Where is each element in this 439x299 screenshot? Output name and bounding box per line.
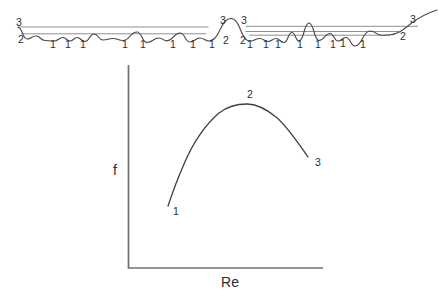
level-label: 2 xyxy=(223,34,229,46)
trough-label: 1 xyxy=(340,37,346,49)
trough-label: 1 xyxy=(209,38,215,50)
trough-label: 1 xyxy=(65,38,71,50)
level-label: 3 xyxy=(241,14,247,26)
figure-canvas: 32323232 1111111111111111 f Re 123 xyxy=(0,0,439,299)
trough-label: 1 xyxy=(263,38,269,50)
trough-label: 1 xyxy=(122,38,128,50)
trough-label: 1 xyxy=(170,38,176,50)
x-axis-label: Re xyxy=(221,274,239,290)
f-re-plot: f Re 123 xyxy=(113,65,323,290)
curve-point-label: 1 xyxy=(173,205,179,217)
trough-label: 1 xyxy=(140,38,146,50)
trough-label: 1 xyxy=(275,38,281,50)
level-label: 2 xyxy=(240,34,246,46)
curve-point-labels: 123 xyxy=(173,88,321,217)
trough-label: 1 xyxy=(80,38,86,50)
trough-label: 1 xyxy=(360,38,366,50)
wave-trough-labels: 1111111111111111 xyxy=(50,37,366,50)
trough-label: 1 xyxy=(315,38,321,50)
wave-level-labels: 32323232 xyxy=(16,13,416,46)
wave-profile-sketch: 32323232 1111111111111111 xyxy=(16,10,437,50)
level-label: 3 xyxy=(16,16,22,28)
level-label: 3 xyxy=(220,14,226,26)
level-label: 2 xyxy=(18,33,24,45)
curve-point-label: 3 xyxy=(315,156,321,168)
curve-point-label: 2 xyxy=(247,88,253,100)
y-axis-label: f xyxy=(113,162,117,178)
level-label: 2 xyxy=(400,30,406,42)
f-curve xyxy=(168,104,308,206)
level-label: 3 xyxy=(410,13,416,25)
trough-label: 1 xyxy=(190,38,196,50)
trough-label: 1 xyxy=(297,38,303,50)
trough-label: 1 xyxy=(50,38,56,50)
figure: 32323232 1111111111111111 f Re 123 xyxy=(0,0,439,299)
trough-label: 1 xyxy=(330,38,336,50)
trough-label: 1 xyxy=(247,38,253,50)
